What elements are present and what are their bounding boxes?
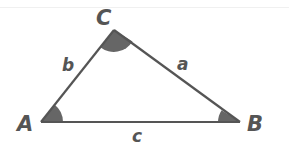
side-label-a: a xyxy=(177,54,188,74)
side-a-line xyxy=(114,30,240,122)
vertex-label-a: A xyxy=(15,112,33,136)
side-b-line xyxy=(41,30,114,122)
side-label-b: b xyxy=(62,55,74,75)
triangle-diagram: C A B b a c xyxy=(0,0,289,154)
vertex-label-b: B xyxy=(247,112,263,136)
vertex-label-c: C xyxy=(96,6,112,30)
side-label-c: c xyxy=(132,126,142,146)
